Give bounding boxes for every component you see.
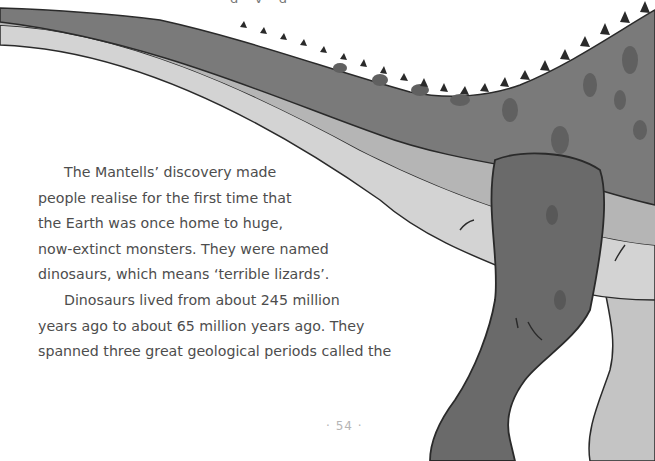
page-number: · 54 · [326,419,363,433]
text-line: The Mantells’ discovery made [38,160,478,186]
text-line: years ago to about 65 million years ago.… [38,314,478,340]
text-line: people realise for the first time that [38,186,478,212]
text-line: the Earth was once home to huge, [38,211,478,237]
paragraph-2: Dinosaurs lived from about 245 million y… [38,288,478,365]
text-line: dinosaurs, which means ‘terrible lizards… [38,262,478,288]
paragraph-1: The Mantells’ discovery made people real… [38,160,478,288]
text-line: Dinosaurs lived from about 245 million [38,288,478,314]
cropped-heading-fragment: g · y · g · [230,0,330,3]
body-text: The Mantells’ discovery made people real… [38,160,478,365]
text-line: spanned three great geological periods c… [38,339,478,365]
text-line: now-extinct monsters. They were named [38,237,478,263]
